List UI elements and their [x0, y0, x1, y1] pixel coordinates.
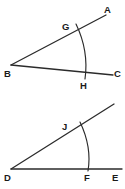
arc-GH	[76, 24, 86, 79]
label-C: C	[114, 68, 121, 79]
lower-angle-figure: D E F J	[4, 104, 122, 183]
ray-D-upper	[11, 104, 114, 169]
label-E: E	[112, 172, 118, 183]
ray-BC	[11, 65, 113, 75]
label-H: H	[80, 80, 87, 91]
arc-JF	[80, 122, 89, 171]
label-B: B	[4, 68, 11, 79]
label-D: D	[4, 172, 11, 183]
geometry-figure-canvas: A B C G H D E F J	[0, 0, 125, 189]
label-G: G	[62, 21, 69, 32]
upper-angle-figure: A B C G H	[4, 4, 121, 91]
label-A: A	[104, 4, 111, 15]
label-J: J	[62, 121, 67, 132]
label-F: F	[84, 172, 90, 183]
ray-BA	[11, 15, 106, 65]
